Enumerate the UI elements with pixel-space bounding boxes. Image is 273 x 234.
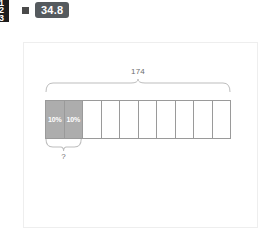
answer-badge: 34.8 (35, 2, 69, 18)
bar-cell[interactable] (194, 101, 213, 138)
part-brace-icon (45, 139, 82, 152)
diagram-canvas: 174 10% 10% ? (23, 42, 258, 228)
bar-cell[interactable]: 10% (46, 101, 65, 138)
bar-cell[interactable] (102, 101, 121, 138)
part-value-label: ? (45, 152, 82, 161)
bar-cell[interactable] (176, 101, 195, 138)
bar-cell[interactable] (83, 101, 102, 138)
edge-digit: 3 (0, 15, 9, 22)
whole-measure: 174 (45, 67, 231, 100)
cut-off-page-numbers: 1 2 3 (0, 0, 9, 22)
bar-model-diagram: 174 10% 10% ? (45, 67, 231, 177)
filled-square-icon (22, 7, 29, 14)
bar-cell[interactable]: 10% (65, 101, 84, 138)
bar-model: 10% 10% (45, 100, 231, 139)
part-measure: ? (45, 139, 82, 169)
bar-cell[interactable] (213, 101, 231, 138)
bar-cell[interactable] (120, 101, 139, 138)
whole-value-label: 174 (45, 67, 231, 76)
top-bar: 1 2 3 34.8 (0, 0, 273, 22)
whole-brace-icon (45, 79, 231, 93)
bar-cell[interactable] (139, 101, 158, 138)
bar-cell-label: 10% (67, 116, 80, 123)
bar-cell[interactable] (157, 101, 176, 138)
bar-cell-label: 10% (48, 116, 61, 123)
